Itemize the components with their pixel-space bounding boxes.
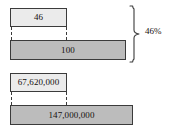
connector-dash-right-population	[66, 92, 67, 105]
bar-ratio-part-label: 46	[34, 13, 43, 22]
bar-ratio-part: 46	[10, 8, 67, 27]
connector-dash-left-population	[11, 92, 12, 105]
bar-population-part: 67,620,000	[10, 73, 67, 92]
bar-population-whole-label: 147,000,000	[48, 111, 94, 120]
curly-brace-right-icon	[128, 5, 144, 63]
bar-ratio-whole-label: 100	[61, 46, 75, 55]
connector-dash-left-ratio	[11, 27, 12, 40]
bar-population-part-label: 67,620,000	[18, 78, 60, 87]
bar-population-whole: 147,000,000	[10, 105, 133, 125]
bar-ratio-whole: 100	[10, 40, 126, 60]
ratio-percentage-label: 46%	[145, 27, 162, 36]
bar-comparison-figure: 46 100 46% 67,620,000 147,000,000	[0, 0, 170, 134]
connector-dash-right-ratio	[66, 27, 67, 40]
